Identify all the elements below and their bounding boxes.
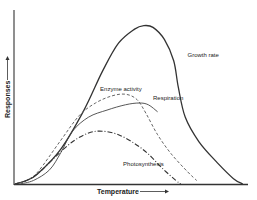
series-line-growth-rate (15, 25, 243, 184)
annotation-enzyme-activity: Enzyme activity (100, 86, 142, 92)
y-axis-title: Responses (4, 56, 12, 118)
chart: Growth rateEnzyme activityRespirationPho… (0, 0, 257, 200)
x-axis-arrowhead-icon (165, 190, 169, 194)
x-axis-title: Temperature (97, 188, 169, 196)
x-axis-label: Temperature (97, 188, 139, 196)
annotation-layer: Growth rateEnzyme activityRespirationPho… (100, 52, 219, 167)
annotation-respiration: Respiration (153, 95, 183, 101)
annotation-photosynthesis: Photosynthesis (123, 161, 164, 167)
series-line-photosynthesis (15, 131, 181, 184)
y-axis-label: Responses (4, 81, 12, 118)
y-axis-arrowhead-icon (6, 56, 10, 60)
annotation-growth-rate: Growth rate (188, 52, 220, 58)
series-layer (15, 25, 243, 184)
series-line-enzyme-activity (15, 94, 197, 184)
